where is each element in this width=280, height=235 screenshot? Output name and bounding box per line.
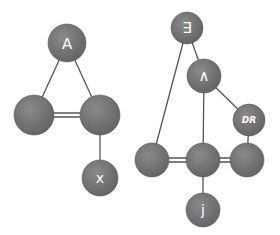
node-label: DR — [242, 115, 256, 125]
node-label: ∀ — [61, 34, 72, 52]
node-right-a — [135, 143, 169, 177]
node-j: j — [186, 193, 220, 227]
node-forall: ∀ — [48, 24, 86, 62]
node-x: x — [82, 160, 118, 196]
node-right-b — [186, 143, 220, 177]
graph-diagram: ∀x∃∧DRj — [0, 0, 280, 235]
node-left-b — [80, 95, 120, 135]
nodes-layer: ∀x∃∧DRj — [14, 12, 265, 227]
node-right-c — [230, 143, 264, 177]
node-label: j — [200, 202, 205, 218]
node-label: ∧ — [199, 67, 210, 85]
edge-exists-right-a — [152, 28, 187, 160]
node-label: x — [96, 170, 104, 186]
node-left-a — [14, 95, 54, 135]
node-circle — [186, 143, 220, 177]
node-dr: DR — [233, 104, 265, 136]
node-circle — [230, 143, 264, 177]
node-circle — [135, 143, 169, 177]
node-circle — [14, 95, 54, 135]
node-label: ∃ — [182, 19, 191, 37]
node-circle — [80, 95, 120, 135]
node-and: ∧ — [187, 59, 221, 93]
node-exists: ∃ — [171, 12, 203, 44]
